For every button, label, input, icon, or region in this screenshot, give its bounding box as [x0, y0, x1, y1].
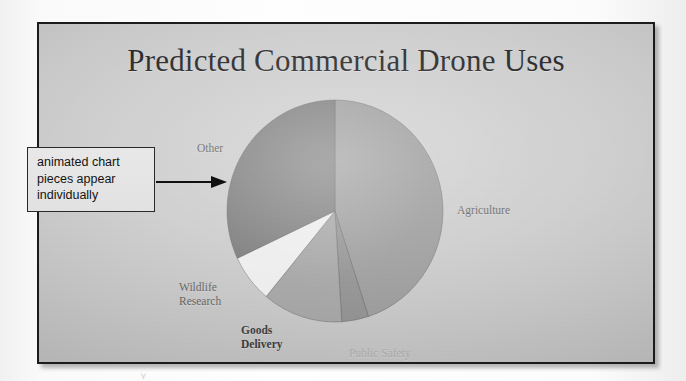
scan-artifact-mark: ⋎ — [140, 371, 147, 381]
callout-line-3: individually — [37, 187, 146, 204]
scanned-page: Predicted Commercial Drone Uses Other Ag… — [0, 0, 686, 381]
pie-label-goods-delivery: Goods Delivery — [241, 323, 283, 351]
callout-arrow-icon — [156, 176, 228, 188]
pie-chart-svg — [226, 99, 444, 323]
callout-line-1: animated chart — [37, 154, 146, 171]
pie-label-agriculture: Agriculture — [457, 203, 510, 217]
pie-label-public-safety: Public Safety — [349, 346, 411, 360]
pie-label-wildlife-research: Wildlife Research — [179, 280, 221, 308]
slide-title: Predicted Commercial Drone Uses — [39, 43, 653, 79]
arrow-head — [211, 176, 227, 188]
pie-chart[interactable] — [226, 99, 444, 323]
annotation-callout: animated chart pieces appear individuall… — [27, 147, 155, 212]
arrow-shaft — [156, 181, 214, 183]
callout-line-2: pieces appear — [37, 171, 146, 188]
pie-label-other: Other — [197, 141, 223, 155]
